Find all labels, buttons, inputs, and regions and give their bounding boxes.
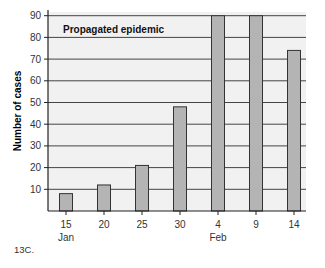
- y-tick-label: 40: [30, 119, 42, 130]
- y-tick-label: 90: [30, 10, 42, 21]
- bar: [98, 185, 111, 211]
- y-tick-label: 30: [30, 140, 42, 151]
- y-tick-label: 20: [30, 162, 42, 173]
- bar: [212, 16, 225, 211]
- bar: [60, 194, 73, 211]
- x-month-label: Jan: [58, 232, 74, 243]
- bar-chart: 102030405060708090 15Jan2025304Feb914 Pr…: [0, 0, 325, 268]
- x-month-label: Feb: [209, 232, 227, 243]
- x-tick-label: 30: [174, 219, 186, 230]
- y-tick-label: 60: [30, 75, 42, 86]
- bar: [136, 165, 149, 211]
- x-tick-label: 14: [288, 219, 300, 230]
- x-tick-label: 9: [253, 219, 259, 230]
- y-ticks: 102030405060708090: [30, 10, 48, 195]
- x-tick-label: 25: [136, 219, 148, 230]
- bar: [250, 16, 263, 211]
- chart-title: Propagated epidemic: [63, 24, 165, 35]
- bar: [288, 50, 301, 211]
- x-tick-label: 15: [60, 219, 72, 230]
- y-axis-label: Number of cases: [12, 70, 23, 151]
- y-tick-label: 10: [30, 184, 42, 195]
- y-tick-label: 70: [30, 54, 42, 65]
- y-tick-label: 50: [30, 97, 42, 108]
- bar: [174, 107, 187, 211]
- x-tick-label: 20: [98, 219, 110, 230]
- figure-caption: 13C.: [14, 244, 34, 255]
- x-tick-label: 4: [215, 219, 221, 230]
- x-ticks: 15Jan2025304Feb914: [58, 211, 300, 243]
- y-tick-label: 80: [30, 32, 42, 43]
